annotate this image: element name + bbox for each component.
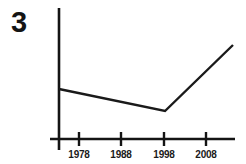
figure-panel: 3 1978 1988 1998 2008: [0, 0, 246, 164]
x-tick-label-2: 1988: [110, 149, 132, 160]
x-tick-label-4: 2008: [195, 149, 217, 160]
x-tick-label-1: 1978: [68, 149, 90, 160]
line-chart: 1978 1988 1998 2008: [0, 0, 246, 164]
data-series-line: [59, 45, 233, 111]
x-tick-label-3: 1998: [153, 149, 175, 160]
